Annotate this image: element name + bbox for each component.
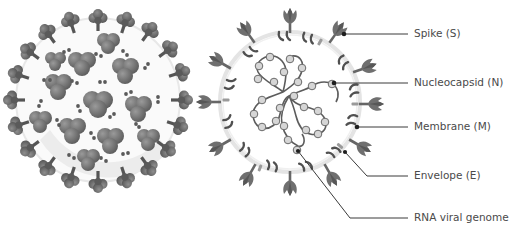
rna-genome-with-nucleocapsid — [250, 53, 338, 154]
virion-cross-section — [196, 8, 384, 196]
virion-exterior-view — [3, 9, 193, 193]
label-rna-genome: RNA viral genome — [414, 212, 509, 223]
label-nucleocapsid: Nucleocapsid (N) — [414, 77, 503, 88]
label-envelope: Envelope (E) — [414, 170, 481, 181]
label-spike: Spike (S) — [414, 28, 461, 39]
label-membrane: Membrane (M) — [414, 121, 491, 132]
spike-proteins — [196, 8, 384, 196]
leader-envelope — [345, 152, 408, 176]
